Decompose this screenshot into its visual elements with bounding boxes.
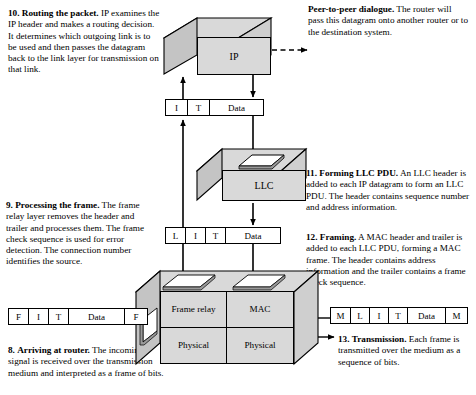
ip-box-label: IP (197, 37, 271, 75)
note-peer-to-peer-dialogue: Peer-to-peer dialogue. The router will p… (308, 4, 468, 38)
pdu-cell: T (49, 309, 69, 324)
note-transmission: 13. Transmission. Each frame is transmit… (338, 334, 470, 368)
diagram-canvas: 10. Routing the packet. IP examines the … (0, 0, 476, 395)
pdu-incoming-frame: F I T Data F (8, 308, 148, 325)
router-layer-grid: Frame relay MAC Physical Physical (160, 291, 294, 364)
note-heading: 8. (8, 345, 15, 355)
note-framing: 12. Framing. A MAC header and trailer is… (306, 232, 474, 288)
pdu-cell: M (331, 308, 351, 323)
pdu-cell: T (188, 100, 210, 115)
note-routing-the-packet: 10. Routing the packet. IP examines the … (8, 8, 160, 76)
note-heading: 13. (338, 334, 349, 344)
router-cell-physical-left: Physical (161, 328, 227, 364)
router-cell-mac: MAC (227, 292, 293, 328)
note-heading-text: Processing the frame. (15, 200, 99, 210)
note-heading-text: Arriving at router. (17, 345, 90, 355)
note-heading: 12. (306, 232, 317, 242)
pdu-cell: T (206, 228, 226, 243)
note-heading-text: Routing the packet. (22, 8, 99, 18)
note-heading: 10. (8, 8, 19, 18)
pdu-cell: Data (210, 100, 263, 115)
pdu-cell: I (186, 228, 206, 243)
llc-box-label: LLC (222, 170, 306, 201)
router-cell-physical-right: Physical (227, 328, 293, 364)
llc-layer-box: LLC (196, 146, 306, 206)
pdu-cell: F (125, 309, 147, 324)
note-processing-the-frame: 9. Processing the frame. The frame relay… (6, 200, 158, 268)
pdu-cell: Data (226, 228, 280, 243)
pdu-cell: F (9, 309, 29, 324)
pdu-outgoing-mac-frame: M L I T Data M (330, 307, 468, 324)
pdu-cell: I (370, 308, 389, 323)
pdu-llc: L I T Data (165, 227, 281, 244)
pdu-cell: Data (408, 308, 446, 323)
pdu-cell: M (446, 308, 467, 323)
pdu-cell: I (166, 100, 188, 115)
note-heading-text: Framing. (320, 232, 357, 242)
pdu-cell: Data (69, 309, 125, 324)
note-forming-llc-pdu: 11. Forming LLC PDU. An LLC header is ad… (306, 168, 472, 213)
note-heading-text: Forming LLC PDU. (319, 168, 398, 178)
pdu-cell: T (389, 308, 408, 323)
pdu-cell: L (351, 308, 370, 323)
pdu-cell: I (29, 309, 49, 324)
note-heading: 9. (6, 200, 13, 210)
ip-layer-box: IP (163, 17, 273, 75)
note-heading-text: Transmission. (352, 334, 407, 344)
router-box: Frame relay MAC Physical Physical (135, 268, 320, 370)
note-heading-text: Peer-to-peer dialogue. (308, 4, 394, 14)
pdu-cell: L (166, 228, 186, 243)
router-cell-frame-relay: Frame relay (161, 292, 227, 328)
pdu-ip-datagram: I T Data (165, 99, 264, 116)
